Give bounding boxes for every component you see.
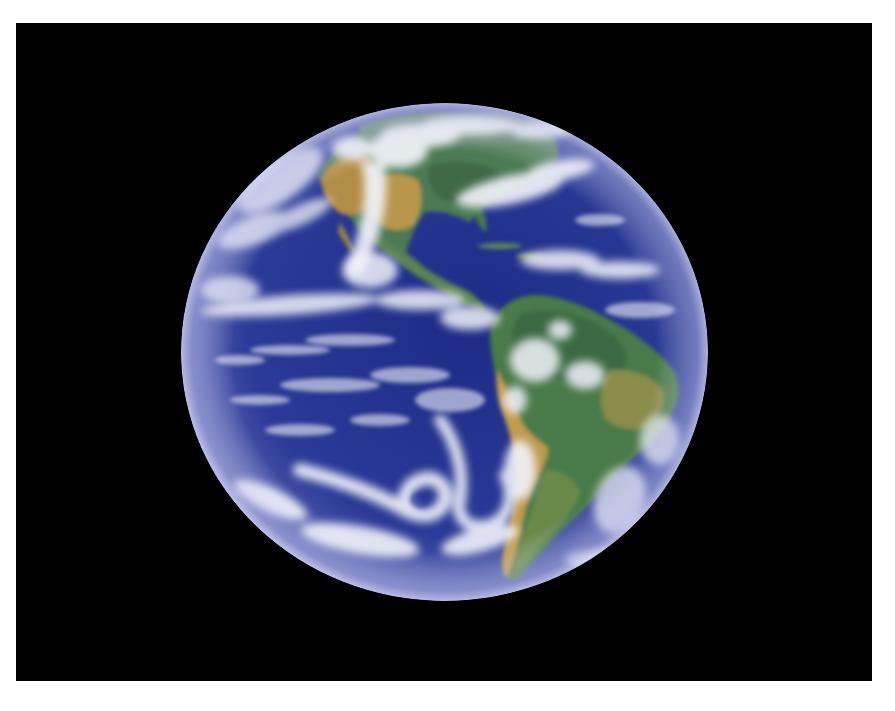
- earth-globe: [0, 0, 895, 711]
- atmosphere-haze: [181, 103, 708, 601]
